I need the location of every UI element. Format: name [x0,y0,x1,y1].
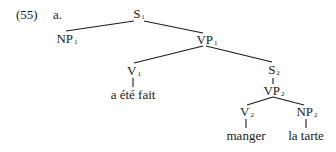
node-vp1: VP1 [196,33,217,50]
node-np2: NP2 [296,105,317,122]
leaf-la-tarte: la tarte [288,129,324,143]
node-s1: S1 [133,7,145,24]
edge-s1-np1 [66,21,134,31]
example-sub-label: a. [53,8,62,22]
node-np1: NP1 [56,32,77,49]
node-v2: V2 [240,105,254,122]
edge-vp1-v1 [134,46,203,63]
node-vp2: VP2 [263,84,284,101]
leaf-a-ete-fait: a été fait [111,88,156,102]
tree-edges [0,0,336,152]
node-v1: V1 [127,64,141,81]
node-s2: S2 [268,63,280,80]
example-number: (55) [16,8,38,22]
leaf-manger: manger [227,129,266,143]
edge-s1-vp1 [144,21,203,33]
